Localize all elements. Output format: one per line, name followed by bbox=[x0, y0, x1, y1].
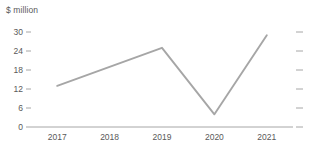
data-series-line bbox=[57, 35, 267, 114]
line-chart: $ million 3024181260 2017201820192020202… bbox=[0, 0, 310, 149]
y-axis-ticks-right bbox=[296, 32, 303, 127]
plot-area bbox=[0, 0, 310, 149]
y-axis-ticks-left bbox=[26, 32, 31, 127]
